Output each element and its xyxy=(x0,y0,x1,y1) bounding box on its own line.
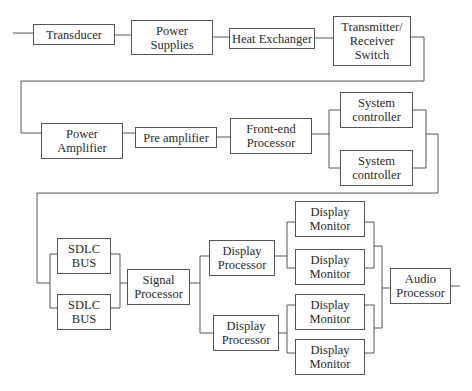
block-display-monitor-2: Display Monitor xyxy=(295,249,365,285)
block-power-supplies: Power Supplies xyxy=(131,20,213,55)
block-heat-exchanger: Heat Exchanger xyxy=(229,28,315,49)
block-transducer: Transducer xyxy=(33,24,115,45)
block-signal-processor: Signal Processor xyxy=(127,269,190,305)
block-sdlc-bus-1: SDLC BUS xyxy=(57,238,111,274)
block-display-monitor-1: Display Monitor xyxy=(295,201,365,237)
block-display-monitor-4: Display Monitor xyxy=(295,339,365,375)
block-sdlc-bus-2: SDLC BUS xyxy=(57,294,111,330)
block-power-amplifier: Power Amplifier xyxy=(41,123,123,159)
block-display-monitor-3: Display Monitor xyxy=(295,294,365,330)
block-transmitter-receiver-switch: Transmitter/ Receiver Switch xyxy=(333,16,411,66)
block-front-end-processor: Front-end Processor xyxy=(230,118,312,154)
block-display-processor-1: Display Processor xyxy=(209,240,275,276)
block-system-controller-2: System controller xyxy=(340,150,413,186)
block-pre-amplifier: Pre amplifier xyxy=(135,127,217,148)
block-system-controller-1: System controller xyxy=(340,92,413,128)
block-audio-processor: Audio Processor xyxy=(390,268,451,304)
block-display-processor-2: Display Processor xyxy=(213,315,279,351)
